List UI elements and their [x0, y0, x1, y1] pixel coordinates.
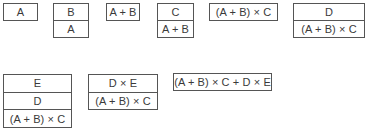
stack-top-cell: C: [158, 4, 193, 20]
stack-cell: A + B: [158, 20, 193, 37]
stack-top-cell: (A + B) × C: [210, 4, 277, 20]
stack-box-2: BA: [53, 3, 89, 38]
stack-cell: (A + B) × C: [89, 92, 157, 110]
stack-cell: A: [54, 20, 88, 37]
stack-box-1: A: [3, 3, 38, 21]
stack-box-6: D(A + B) × C: [293, 3, 365, 38]
stack-box-8: D × E(A + B) × C: [88, 74, 158, 110]
stack-cell: (A + B) × C: [4, 109, 71, 127]
stack-box-4: CA + B: [157, 3, 194, 38]
stack-box-9: (A + B) × C + D × E: [173, 73, 272, 91]
stack-box-3: A + B: [106, 3, 140, 21]
stack-top-cell: B: [54, 4, 88, 20]
stack-cell: (A + B) × C: [294, 20, 364, 37]
stack-top-cell: D: [294, 4, 364, 20]
stack-box-5: (A + B) × C: [209, 3, 278, 21]
stack-top-cell: E: [4, 75, 71, 92]
stack-top-cell: A: [4, 4, 37, 20]
stack-top-cell: D × E: [89, 75, 157, 92]
stack-top-cell: A + B: [107, 4, 139, 20]
stack-box-7: ED(A + B) × C: [3, 74, 72, 128]
stack-cell: D: [4, 92, 71, 110]
stack-top-cell: (A + B) × C + D × E: [174, 74, 271, 90]
